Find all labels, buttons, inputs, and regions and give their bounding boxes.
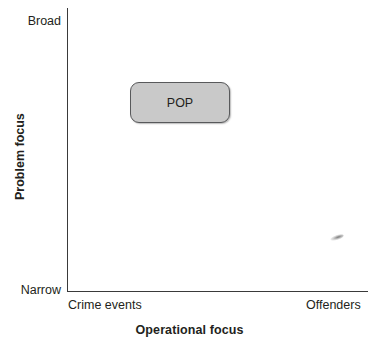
scan-artifact-smudge (330, 233, 345, 242)
node-pop-label: POP (167, 96, 193, 110)
x-axis-high-tick-label: Offenders (306, 299, 361, 312)
x-axis-line (67, 291, 368, 292)
figure-canvas: Broad Narrow Crime events Offenders Prob… (0, 0, 379, 354)
x-axis-low-tick-label: Crime events (68, 299, 142, 312)
y-axis-low-tick-label: Narrow (21, 284, 61, 297)
y-axis-title: Problem focus (13, 113, 27, 200)
y-axis-high-tick-label: Broad (28, 15, 61, 28)
x-axis-title: Operational focus (0, 323, 379, 337)
node-pop: POP (130, 82, 230, 123)
y-axis-line (67, 8, 68, 292)
